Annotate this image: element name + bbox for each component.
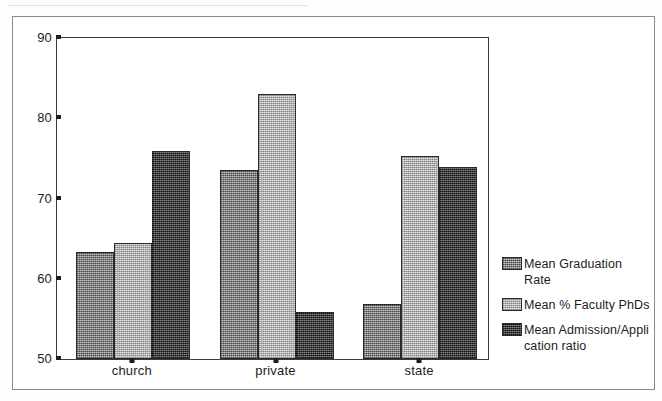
- y-axis-tick-mark: [56, 115, 61, 119]
- bars-layer: [57, 38, 488, 359]
- y-axis-tick-label: 90: [18, 31, 52, 44]
- legend-label: Mean Admission/Appli cation ratio: [524, 322, 649, 354]
- scan-artifact-line: [8, 5, 308, 6]
- x-axis-tick-label: state: [405, 363, 434, 378]
- bar: [76, 252, 114, 359]
- y-axis-tick-mark: [56, 35, 61, 39]
- chart-page: 9080706050 churchprivatestate Mean Gradu…: [0, 0, 662, 401]
- plot-area: [56, 37, 489, 360]
- legend-swatch-icon: [502, 298, 522, 311]
- legend-label: Mean Graduation Rate: [524, 256, 652, 288]
- x-axis-tick-label: private: [255, 363, 295, 378]
- y-axis-tick-mark: [56, 276, 61, 280]
- bar: [220, 170, 258, 359]
- legend-item: Mean Admission/Appli cation ratio: [502, 322, 652, 354]
- y-axis-tick-label: 70: [18, 191, 52, 204]
- bar: [401, 156, 439, 359]
- y-axis-tick-label: 60: [18, 271, 52, 284]
- y-axis-tick-mark: [56, 196, 61, 200]
- bar: [258, 94, 296, 359]
- legend-swatch-icon: [502, 323, 522, 336]
- x-axis-tick-label: church: [112, 363, 152, 378]
- legend-label: Mean % Faculty PhDs: [524, 297, 650, 313]
- y-axis-tick-label: 80: [18, 111, 52, 124]
- y-axis-labels: 9080706050: [12, 0, 52, 401]
- bar: [114, 243, 152, 359]
- y-axis-tick-label: 50: [18, 352, 52, 365]
- legend: Mean Graduation RateMean % Faculty PhDsM…: [502, 256, 652, 363]
- bar: [439, 167, 477, 359]
- bar: [152, 151, 190, 359]
- legend-swatch-icon: [502, 257, 522, 270]
- legend-item: Mean Graduation Rate: [502, 256, 652, 288]
- legend-item: Mean % Faculty PhDs: [502, 297, 652, 313]
- y-axis-tick-mark: [56, 356, 61, 360]
- bar: [296, 312, 334, 359]
- bar: [363, 304, 401, 359]
